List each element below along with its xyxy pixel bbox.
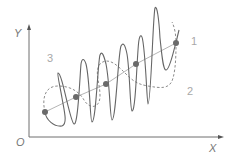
signal-curve-label: 3 bbox=[47, 53, 53, 64]
sample-point bbox=[42, 109, 48, 115]
sample-point bbox=[103, 81, 109, 87]
sample-point bbox=[73, 94, 79, 100]
sample-point bbox=[173, 40, 179, 46]
x-axis-arrow-icon bbox=[218, 135, 224, 139]
y-axis-label: Y bbox=[14, 28, 21, 39]
x-axis-label: X bbox=[209, 143, 216, 154]
sample-point bbox=[133, 61, 139, 67]
y-axis-arrow-icon bbox=[27, 24, 31, 30]
trend-line-label: 1 bbox=[191, 36, 197, 47]
diagram-canvas bbox=[0, 0, 236, 162]
signal-curve bbox=[45, 7, 179, 126]
trend-line bbox=[45, 43, 176, 112]
envelope-curve-label: 2 bbox=[187, 86, 193, 97]
origin-label: O bbox=[16, 137, 25, 148]
